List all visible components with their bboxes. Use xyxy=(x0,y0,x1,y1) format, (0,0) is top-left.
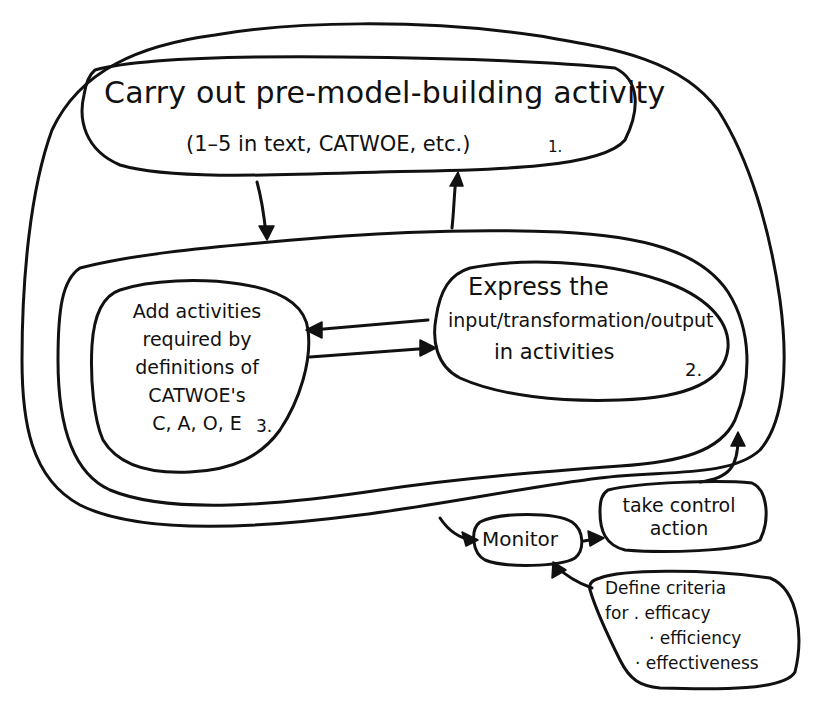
add-line-3: definitions of xyxy=(92,358,302,377)
arrowhead-system-icon xyxy=(731,432,745,446)
pre-model-subtitle: (1–5 in text, CATWOE, etc.) xyxy=(186,134,470,155)
arrow-add-to-express xyxy=(310,348,432,357)
criteria-line-4: · effectiveness xyxy=(605,655,759,672)
criteria-line-2: for . efficacy xyxy=(605,605,759,622)
add-activities-number: 3. xyxy=(256,418,272,435)
express-number: 2. xyxy=(685,361,702,379)
criteria-line-3: · efficiency xyxy=(605,630,759,647)
take-control-line-2: action xyxy=(604,519,754,538)
take-control-line-1: take control xyxy=(604,496,754,515)
express-line-3: in activities xyxy=(448,342,714,363)
arrowhead-right-icon xyxy=(420,340,436,356)
take-control-label: take control action xyxy=(604,496,754,542)
add-line-1: Add activities xyxy=(92,302,302,321)
pre-model-title: Carry out pre-model-building activity xyxy=(104,78,665,108)
add-line-4: CATWOE's xyxy=(92,386,302,405)
express-line-1: Express the xyxy=(448,275,714,299)
express-node-label: Express the input/transformation/output … xyxy=(448,275,714,375)
arrowhead-control-icon xyxy=(588,531,604,546)
add-line-2: required by xyxy=(92,330,302,349)
pre-model-number: 1. xyxy=(548,140,562,155)
express-line-2: input/transformation/output xyxy=(448,311,714,330)
define-criteria-label: Define criteria for . efficacy · efficie… xyxy=(605,580,759,680)
arrowhead-down-icon xyxy=(259,226,274,240)
diagram-canvas: Carry out pre-model-building activity (1… xyxy=(0,0,813,702)
criteria-line-1: Define criteria xyxy=(605,580,759,597)
arrowhead-up-icon xyxy=(450,172,463,186)
monitor-label: Monitor xyxy=(482,529,558,549)
arrow-express-to-add xyxy=(312,320,428,330)
